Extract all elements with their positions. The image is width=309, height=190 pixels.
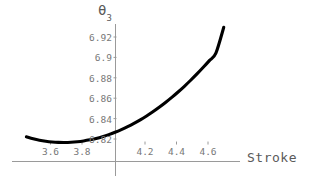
x-tick-label: 4.4 — [168, 146, 185, 157]
x-tick-label: 3.6 — [42, 146, 59, 157]
y-tick-label: 6.88 — [76, 72, 112, 83]
y-axis-title-subscript: 3 — [106, 13, 111, 23]
chart-figure: θ3 Stroke 3.63.84.24.44.6 6.826.846.866.… — [0, 0, 309, 190]
x-axis-title: Stroke — [247, 150, 297, 165]
y-tick-label: 6.82 — [76, 134, 112, 145]
y-tick-label: 6.92 — [76, 32, 112, 43]
x-tick-label: 4.6 — [199, 146, 216, 157]
data-series-group — [26, 27, 223, 142]
y-tick-label: 6.86 — [76, 93, 112, 104]
y-axis-title: θ3 — [98, 2, 112, 21]
x-tick-label: 3.8 — [73, 146, 90, 157]
y-tick-label: 6.9 — [76, 52, 112, 63]
x-tick-label: 4.2 — [136, 146, 153, 157]
y-tick-label: 6.84 — [76, 113, 112, 124]
data-curve — [26, 27, 223, 142]
